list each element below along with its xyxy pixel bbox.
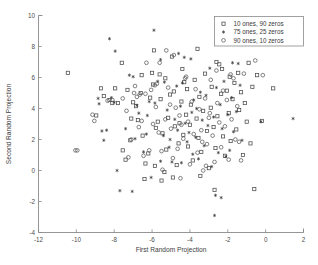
data-point bbox=[235, 104, 239, 108]
x-axis-title: First Random Projection bbox=[136, 246, 207, 254]
data-point bbox=[203, 97, 207, 101]
data-point bbox=[143, 177, 146, 180]
legend-label: 75 ones, 25 zeros bbox=[234, 28, 284, 35]
legend-label: 90 ones, 10 zeros bbox=[234, 37, 284, 44]
data-point bbox=[173, 125, 176, 128]
data-point bbox=[100, 129, 103, 132]
data-point bbox=[182, 133, 185, 136]
data-point bbox=[199, 128, 203, 132]
data-point bbox=[198, 95, 201, 98]
data-point bbox=[253, 59, 257, 63]
data-point bbox=[158, 61, 162, 65]
data-point bbox=[203, 72, 206, 75]
data-point bbox=[232, 76, 236, 80]
series-0-markers bbox=[66, 47, 275, 191]
data-point bbox=[102, 139, 105, 142]
data-point bbox=[156, 120, 159, 123]
data-point bbox=[152, 49, 155, 52]
x-tick-label: -8 bbox=[111, 236, 117, 243]
data-point bbox=[207, 116, 211, 120]
data-point bbox=[124, 127, 127, 130]
data-point bbox=[247, 61, 250, 64]
data-point bbox=[118, 189, 121, 192]
scatter-plot-figure: -12-10-8-6-4-202-4-20246810First Random … bbox=[0, 0, 318, 265]
data-point bbox=[98, 102, 101, 105]
data-point bbox=[125, 109, 129, 113]
legend-label: 10 ones, 90 zeros bbox=[234, 20, 284, 27]
data-point bbox=[142, 150, 145, 153]
data-point bbox=[129, 138, 133, 142]
data-point bbox=[175, 84, 178, 87]
data-point bbox=[216, 101, 220, 105]
data-point bbox=[134, 137, 137, 140]
data-point bbox=[239, 84, 242, 87]
data-point bbox=[126, 88, 129, 91]
data-point bbox=[221, 135, 224, 138]
x-tick-label: -12 bbox=[34, 236, 44, 243]
data-point bbox=[227, 158, 231, 162]
data-point bbox=[176, 129, 179, 132]
x-tick-label: -6 bbox=[149, 236, 155, 243]
data-point bbox=[146, 114, 149, 117]
data-point bbox=[231, 61, 234, 64]
data-point bbox=[225, 89, 228, 92]
data-point bbox=[153, 164, 156, 167]
data-point bbox=[159, 160, 162, 163]
data-point bbox=[154, 126, 157, 129]
data-point bbox=[154, 105, 158, 109]
data-point bbox=[202, 109, 205, 112]
axis-labels-layer: -12-10-8-6-4-202-4-20246810First Random … bbox=[5, 12, 306, 254]
data-point bbox=[131, 190, 134, 193]
plot-canvas: -12-10-8-6-4-202-4-20246810First Random … bbox=[0, 0, 318, 265]
data-point bbox=[215, 86, 218, 89]
data-point bbox=[230, 118, 234, 122]
data-point bbox=[229, 73, 233, 77]
data-point bbox=[237, 140, 241, 144]
data-point bbox=[178, 114, 182, 118]
data-point bbox=[121, 97, 125, 101]
data-point bbox=[157, 131, 161, 135]
data-point bbox=[164, 49, 168, 53]
data-point bbox=[183, 56, 186, 59]
data-point bbox=[215, 69, 219, 73]
data-point bbox=[201, 118, 204, 121]
series-2-markers bbox=[74, 49, 265, 181]
data-point bbox=[228, 149, 231, 152]
data-point bbox=[225, 98, 229, 102]
data-point bbox=[249, 142, 252, 145]
data-point bbox=[116, 169, 119, 172]
data-point bbox=[114, 49, 117, 52]
data-point bbox=[213, 214, 216, 217]
data-point bbox=[132, 91, 136, 95]
data-point bbox=[152, 29, 155, 32]
data-point bbox=[121, 149, 124, 152]
data-point bbox=[190, 111, 193, 114]
data-point bbox=[148, 100, 151, 103]
data-point bbox=[137, 125, 141, 129]
data-point bbox=[110, 96, 113, 99]
data-point bbox=[150, 176, 153, 179]
data-point bbox=[97, 97, 100, 100]
data-point bbox=[159, 98, 162, 101]
data-point bbox=[245, 120, 248, 123]
data-point bbox=[108, 37, 111, 40]
data-point bbox=[200, 150, 203, 153]
data-point bbox=[197, 157, 200, 160]
data-point bbox=[212, 126, 215, 129]
data-point bbox=[179, 176, 183, 180]
data-point bbox=[199, 174, 202, 177]
data-point bbox=[185, 113, 188, 116]
data-point bbox=[220, 196, 223, 199]
data-point bbox=[163, 170, 166, 173]
data-point bbox=[141, 134, 144, 137]
data-point bbox=[162, 134, 165, 137]
data-point bbox=[193, 78, 196, 81]
data-point bbox=[210, 85, 213, 88]
data-point bbox=[179, 104, 182, 107]
data-point bbox=[164, 77, 167, 80]
data-point bbox=[261, 73, 265, 77]
y-tick-label: -2 bbox=[29, 198, 35, 205]
data-point bbox=[209, 106, 212, 109]
data-point bbox=[239, 159, 243, 163]
data-point bbox=[214, 194, 217, 197]
